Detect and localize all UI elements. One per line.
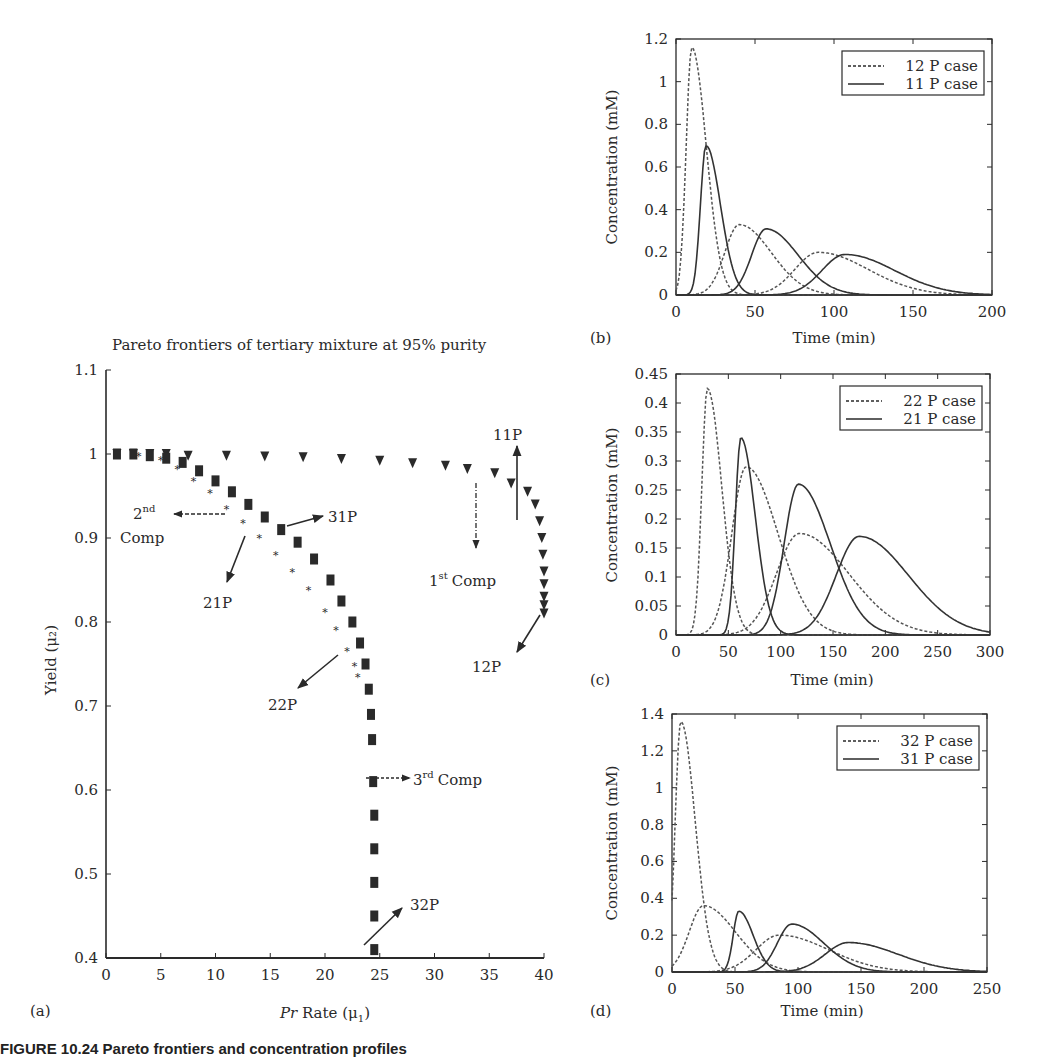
triangle-marker [531,499,540,509]
arrow-12p [517,615,540,652]
triangle-marker [538,550,547,560]
curve-11-p-case [676,229,992,295]
star-marker: * [355,671,361,684]
square-marker [179,457,187,468]
legend-entry: 21 P case [903,410,976,428]
square-marker [362,659,370,670]
panel-a-ylabel: Yield (μ₂) [42,625,60,696]
star-marker: * [322,606,328,619]
square-marker [370,944,378,955]
y-tick-label: 0.7 [74,697,98,715]
panel-d-ylabel: Concentration (mM) [603,766,621,921]
y-tick-label: 0.1 [644,568,668,586]
star-marker: * [191,475,197,488]
square-marker [294,537,302,548]
star-marker: * [344,645,350,658]
triangle-marker [408,458,417,468]
triangle-marker [535,516,544,526]
triangle-marker [299,452,308,462]
y-tick-label: 0.6 [644,158,668,176]
square-marker [368,734,376,745]
square-marker [162,453,170,464]
panel-a-pareto-plot: Pareto frontiers of tertiary mixture at … [30,336,554,1024]
star-marker: * [333,624,339,637]
star-marker: * [207,487,213,500]
x-tick-label: 50 [725,980,744,998]
panel-c-xlabel: Time (min) [790,671,873,689]
square-marker [277,524,285,535]
triangle-marker [540,579,549,589]
x-tick-label: 0 [671,303,681,321]
square-marker [367,709,375,720]
x-tick-label: 50 [745,303,764,321]
panel-d-concentration-plot: 05010015020025000.20.40.60.811.21.4 32 P… [590,705,1001,1020]
y-tick-label: 1.2 [644,30,668,48]
y-tick-label: 0.25 [635,481,668,499]
square-marker [326,575,334,586]
square-marker [113,449,121,460]
y-tick-label: 0.4 [640,889,664,907]
panel-d-legend: 32 P case31 P case [837,726,979,770]
panel-b-concentration-plot: 05010015020000.20.40.60.811.2 12 P case1… [590,30,1006,347]
label-1st-comp: 1stComp [429,570,496,590]
label-12p: 12P [472,658,501,676]
triangle-marker [463,464,472,474]
x-tick-label: 5 [156,966,166,984]
square-marker [370,810,378,821]
legend-entry: 32 P case [900,732,973,750]
panel-c-legend: 22 P case21 P case [840,386,982,430]
panel-a-annotations: 11P 1stComp 12P 31P 2nd Comp 21P 22P [120,426,540,945]
x-tick-label: 150 [819,643,848,661]
panel-a-label: (a) [30,1002,51,1020]
panel-c-label: (c) [590,671,610,689]
triangle-marker [441,461,450,471]
label-31p: 31P [328,508,357,526]
y-tick-label: 0.2 [644,510,668,528]
legend-entry: 31 P case [900,750,973,768]
label-21p: 21P [203,594,232,612]
square-marker [310,554,318,565]
x-tick-label: 50 [719,643,738,661]
x-tick-label: 20 [315,966,334,984]
x-tick-label: 25 [370,966,389,984]
arrow-21p [227,536,245,582]
y-tick-label: 0.8 [640,816,664,834]
panel-d-label: (d) [590,1002,611,1020]
panel-b-label: (b) [590,329,611,347]
panel-a-title: Pareto frontiers of tertiary mixture at … [112,336,487,354]
x-tick-label: 150 [899,303,928,321]
triangle-marker [260,452,269,462]
x-tick-label: 100 [766,643,795,661]
y-tick-label: 0.15 [635,539,668,557]
panel-b-legend: 12 P case11 P case [842,51,984,95]
star-marker: * [289,566,295,579]
x-tick-label: 30 [425,966,444,984]
curve-21-p-case [676,438,990,635]
label-2nd-comp: 2nd [133,503,156,523]
y-tick-label: 0 [654,963,664,981]
y-tick-label: 0.4 [644,201,668,219]
y-tick-label: 0.45 [635,365,668,383]
y-tick-label: 0.9 [74,529,98,547]
y-tick-label: 0.6 [74,781,98,799]
square-marker [261,512,269,523]
x-tick-label: 100 [820,303,849,321]
curve-31-p-case [672,943,987,973]
panel-c-ylabel: Concentration (mM) [603,428,621,583]
x-tick-label: 150 [847,980,876,998]
label-11p: 11P [493,426,522,444]
panel-b-xlabel: Time (min) [792,329,875,347]
arrow-32p [364,908,402,945]
square-marker [370,877,378,888]
legend-entry: 11 P case [905,75,978,93]
square-marker [370,911,378,922]
x-tick-label: 200 [978,303,1007,321]
legend-entry: 22 P case [903,392,976,410]
curve-31-p-case [672,911,987,972]
label-3rd-comp: 3rdComp [413,769,482,789]
y-tick-label: 0 [658,626,668,644]
square-marker [146,450,154,461]
triangle-marker [222,451,231,461]
y-tick-label: 0.05 [635,597,668,615]
figure-caption: FIGURE 10.24 Pareto frontiers and concen… [0,1040,407,1057]
